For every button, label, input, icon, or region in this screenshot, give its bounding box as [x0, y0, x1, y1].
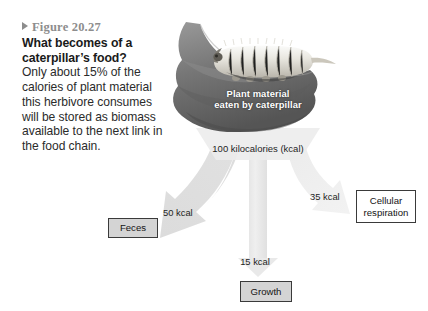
cellular-respiration-line2: respiration	[364, 207, 409, 219]
figure-panel: Figure 20.27 What becomes of a caterpill…	[0, 0, 428, 311]
triangle-marker-icon	[22, 22, 28, 30]
figure-caption: Figure 20.27 What becomes of a caterpill…	[22, 20, 170, 154]
figure-number: Figure 20.27	[22, 20, 170, 35]
feces-energy-label: 50 kcal	[163, 207, 193, 218]
arrow-to-feces	[160, 148, 239, 238]
cellular-respiration-box: Cellular respiration	[356, 190, 416, 223]
plant-material-label: Plant material eaten by caterpillar	[196, 88, 320, 111]
feces-box-label: Feces	[120, 222, 146, 234]
growth-energy-label: 15 kcal	[225, 256, 285, 267]
figure-body-text: Only about 15% of the calories of plant …	[22, 65, 170, 154]
figure-number-label: Figure 20.27	[32, 20, 101, 34]
cellular-respiration-line1: Cellular	[370, 195, 403, 207]
feces-box: Feces	[108, 218, 158, 238]
plant-material-line2: eaten by caterpillar	[196, 99, 320, 110]
input-energy-label: 100 kilocalories (kcal)	[196, 143, 320, 154]
caterpillar-photo	[213, 38, 336, 82]
respiration-energy-label: 35 kcal	[310, 191, 340, 202]
growth-box: Growth	[240, 281, 292, 302]
figure-title: What becomes of a caterpillar’s food?	[22, 36, 170, 65]
plant-material-line1: Plant material	[196, 88, 320, 99]
growth-box-label: Growth	[251, 286, 282, 298]
